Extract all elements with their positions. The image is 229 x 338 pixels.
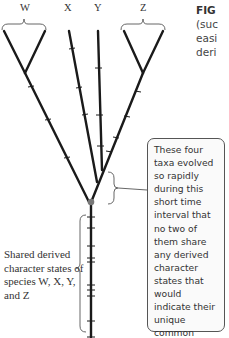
- taxon-label-x: X: [64, 2, 72, 13]
- taxon-label-w: W: [20, 2, 30, 13]
- figure-caption-fragment: FIG (suc easi deri: [196, 3, 218, 59]
- callout-box: These four taxa evolved so rapidly durin…: [147, 138, 225, 332]
- ancestral-node: [88, 199, 95, 206]
- taxon-label-y: Y: [94, 2, 102, 13]
- caption-title: FIG: [196, 4, 216, 16]
- shared-characters-label: Shared derived character states of speci…: [4, 248, 84, 302]
- caption-line: deri: [196, 45, 218, 59]
- taxon-label-z: Z: [140, 2, 146, 13]
- caption-line: easi: [196, 31, 218, 45]
- caption-line: (suc: [196, 17, 218, 31]
